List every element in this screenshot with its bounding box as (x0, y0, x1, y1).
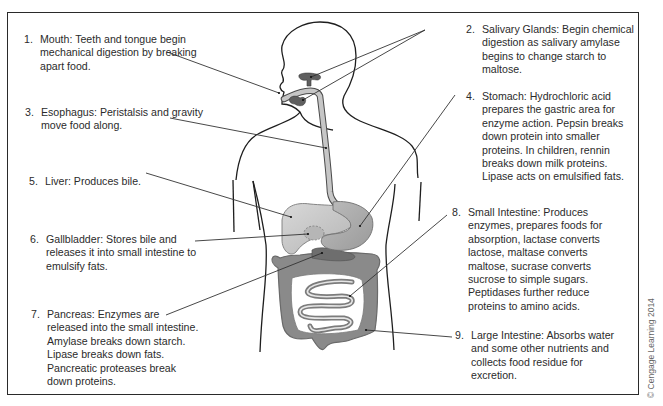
label-number: 5. (29, 175, 38, 188)
label-stomach: 4. Stomach: Hydrochloric acid prepares t… (466, 90, 626, 184)
label-small-intestine: 8. Small Intestine: Produces enzymes, pr… (452, 206, 614, 313)
label-liver: 5. Liver: Produces bile. (29, 175, 209, 188)
label-number: 1. (24, 33, 33, 46)
label-text: Small Intestine: Produces enzymes, prepa… (468, 206, 614, 313)
label-large-intestine: 9. Large Intestine: Absorbs water and so… (455, 329, 620, 383)
label-number: 7. (31, 308, 40, 321)
label-number: 3. (25, 106, 34, 119)
label-text: Esophagus: Peristalsis and gravity move … (41, 106, 205, 133)
label-text: Liver: Produces bile. (45, 175, 209, 188)
gallbladder (304, 226, 324, 240)
label-text: Salivary Glands: Begin chemical digestio… (482, 23, 636, 77)
label-number: 4. (466, 90, 475, 103)
label-gallbladder: 6. Gallbladder: Stores bile and releases… (30, 233, 208, 273)
label-esophagus: 3. Esophagus: Peristalsis and gravity mo… (25, 106, 205, 133)
label-text: Stomach: Hydrochloric acid prepares the … (482, 90, 626, 184)
label-text: Gallbladder: Stores bile and releases it… (46, 233, 208, 273)
label-text: Large Intestine: Absorbs water and some … (471, 329, 620, 383)
esophagus (284, 91, 352, 210)
label-number: 2. (466, 23, 475, 36)
label-text: Pancreas: Enzymes are released into the … (47, 308, 201, 388)
label-mouth: 1. Mouth: Teeth and tongue begin mechani… (24, 33, 214, 73)
label-text: Mouth: Teeth and tongue begin mechanical… (40, 33, 214, 73)
label-salivary-glands: 2. Salivary Glands: Begin chemical diges… (466, 23, 636, 77)
label-pancreas: 7. Pancreas: Enzymes are released into t… (31, 308, 201, 388)
copyright-credit: © Cengage Learning 2014 (646, 298, 656, 398)
label-number: 9. (455, 329, 464, 342)
label-number: 6. (30, 233, 39, 246)
label-number: 8. (452, 206, 461, 219)
